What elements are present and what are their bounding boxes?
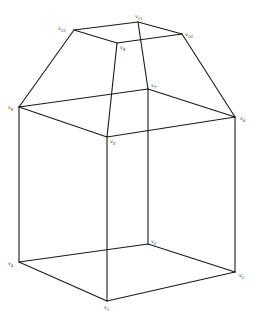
edge-v5-v8 xyxy=(19,107,107,137)
vertex-label-v5: v5 xyxy=(110,139,115,146)
vertex-label-v11: v11 xyxy=(135,14,143,21)
edge-v6-v5 xyxy=(107,117,235,137)
vertex-label-v1: v1 xyxy=(104,305,109,311)
edge-v8-v7 xyxy=(19,89,148,107)
edge-v4-v3 xyxy=(19,244,148,262)
vertex-label-v12: v12 xyxy=(58,26,66,33)
edge-v12-v8 xyxy=(19,30,74,107)
edge-v7-v6 xyxy=(148,89,235,117)
edge-v10-v6 xyxy=(182,34,235,117)
edge-v11-v10 xyxy=(138,22,182,34)
vertex-label-v8: v8 xyxy=(8,105,13,112)
edge-v9-v12 xyxy=(74,30,117,43)
edge-v2-v1 xyxy=(107,272,235,301)
edge-v10-v9 xyxy=(117,34,182,43)
edge-v9-v5 xyxy=(107,43,117,137)
edge-v11-v7 xyxy=(138,22,148,89)
vertex-label-v3: v3 xyxy=(151,239,156,246)
vertex-label-v6: v6 xyxy=(240,116,245,123)
edge-v3-v2 xyxy=(148,244,235,272)
edge-v1-v4 xyxy=(19,262,107,301)
vertex-label-v4: v4 xyxy=(8,261,13,268)
edge-v12-v11 xyxy=(74,22,138,30)
vertex-label-v9: v9 xyxy=(120,45,125,52)
vertex-label-v2: v2 xyxy=(239,273,244,280)
vertex-label-v7: v7 xyxy=(151,83,156,90)
vertex-label-v10: v10 xyxy=(185,32,193,39)
polyhedron-diagram xyxy=(0,0,258,311)
